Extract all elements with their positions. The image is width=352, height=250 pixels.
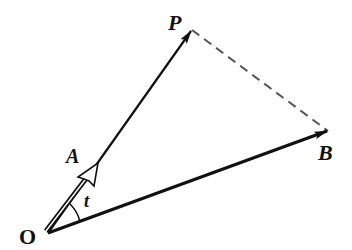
label-o: O <box>19 226 36 248</box>
label-p: P <box>168 12 181 34</box>
dashed-segment-pb <box>192 30 328 131</box>
vector-oa <box>46 163 98 231</box>
label-t: t <box>84 192 89 210</box>
vector-diagram <box>0 0 352 250</box>
label-b: B <box>318 142 333 164</box>
label-a: A <box>66 146 79 166</box>
angle-arc-t <box>70 204 80 222</box>
